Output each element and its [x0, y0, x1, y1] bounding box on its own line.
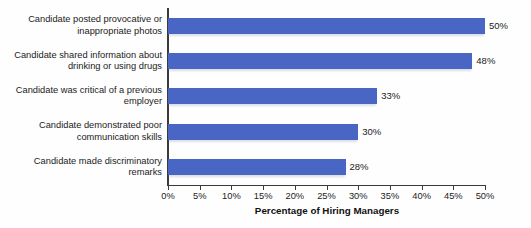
x-axis-tick-label: 20%	[285, 191, 304, 201]
bar-chart: 50%Candidate posted provocative or inapp…	[0, 0, 531, 228]
x-axis-tick	[263, 185, 264, 190]
x-axis-tick-label: 40%	[412, 191, 431, 201]
x-axis-tick	[295, 185, 296, 190]
x-axis-tick-label: 5%	[193, 191, 206, 201]
category-label: Candidate shared information about drink…	[4, 43, 162, 78]
bar	[168, 53, 472, 69]
x-axis-tick-label: 30%	[349, 191, 368, 201]
bar	[168, 88, 377, 104]
bar-value-label: 50%	[489, 18, 508, 34]
bar-value-label: 33%	[381, 88, 400, 104]
x-axis-tick	[358, 185, 359, 190]
x-axis-tick	[390, 185, 391, 190]
bar-row: 28%Candidate made discriminatory remarks	[168, 150, 485, 185]
x-axis-tick-label: 50%	[476, 191, 495, 201]
x-axis-tick	[422, 185, 423, 190]
category-label: Candidate posted provocative or inapprop…	[4, 8, 162, 43]
plot-area: 50%Candidate posted provocative or inapp…	[168, 8, 485, 185]
bar-value-label: 28%	[350, 159, 369, 175]
category-label: Candidate was critical of a previous emp…	[4, 79, 162, 114]
x-axis-tick	[485, 185, 486, 190]
x-axis-tick-label: 35%	[381, 191, 400, 201]
bar-value-label: 30%	[362, 124, 381, 140]
category-label: Candidate demonstrated poor communicatio…	[4, 114, 162, 149]
bar	[168, 124, 358, 140]
bar-row: 50%Candidate posted provocative or inapp…	[168, 8, 485, 43]
x-axis-tick	[231, 185, 232, 190]
x-axis-tick-label: 25%	[317, 191, 336, 201]
x-axis-title: Percentage of Hiring Managers	[168, 205, 486, 216]
x-axis-tick	[200, 185, 201, 190]
bar-row: 33%Candidate was critical of a previous …	[168, 79, 485, 114]
category-label: Candidate made discriminatory remarks	[4, 150, 162, 185]
bar	[168, 18, 485, 34]
x-axis-tick-label: 45%	[444, 191, 463, 201]
bar-value-label: 48%	[476, 53, 495, 69]
x-axis-tick-label: 15%	[254, 191, 273, 201]
x-axis-tick	[327, 185, 328, 190]
bar-row: 30%Candidate demonstrated poor communica…	[168, 114, 485, 149]
x-axis-tick	[168, 185, 169, 190]
x-axis-tick	[453, 185, 454, 190]
x-axis-tick-label: 0%	[161, 191, 174, 201]
x-axis-tick-label: 10%	[222, 191, 241, 201]
bar	[168, 159, 346, 175]
bar-row: 48%Candidate shared information about dr…	[168, 43, 485, 78]
